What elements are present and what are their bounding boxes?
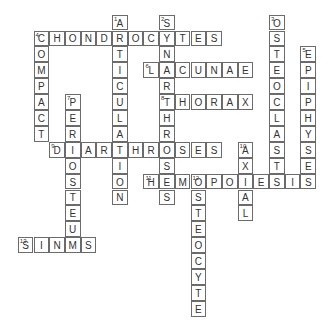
- crossword-cell[interactable]: T: [65, 190, 81, 206]
- crossword-cell[interactable]: A: [238, 190, 254, 206]
- crossword-cell[interactable]: 2S: [159, 15, 175, 31]
- crossword-cell[interactable]: T: [175, 31, 191, 47]
- crossword-cell[interactable]: 9D: [49, 142, 65, 158]
- crossword-cell[interactable]: O: [159, 142, 175, 158]
- crossword-cell[interactable]: I: [285, 174, 301, 190]
- crossword-cell[interactable]: S: [65, 174, 81, 190]
- crossword-cell[interactable]: E: [238, 62, 254, 78]
- crossword-cell[interactable]: I: [300, 78, 316, 94]
- crossword-cell[interactable]: S: [159, 190, 175, 206]
- crossword-cell[interactable]: X: [238, 94, 254, 110]
- crossword-cell[interactable]: 4C: [34, 31, 50, 47]
- crossword-cell[interactable]: 12O: [191, 174, 207, 190]
- crossword-cell[interactable]: R: [159, 126, 175, 142]
- crossword-cell[interactable]: A: [112, 126, 128, 142]
- crossword-cell[interactable]: T: [34, 126, 50, 142]
- crossword-cell[interactable]: O: [269, 78, 285, 94]
- crossword-cell[interactable]: 13S: [18, 237, 34, 253]
- crossword-cell[interactable]: O: [65, 158, 81, 174]
- crossword-cell[interactable]: I: [34, 237, 50, 253]
- crossword-cell[interactable]: S: [81, 237, 97, 253]
- crossword-cell[interactable]: E: [191, 221, 207, 237]
- crossword-cell[interactable]: P: [206, 174, 222, 190]
- crossword-cell[interactable]: I: [65, 142, 81, 158]
- crossword-cell[interactable]: E: [65, 205, 81, 221]
- crossword-cell[interactable]: T: [191, 285, 207, 301]
- crossword-cell[interactable]: U: [191, 62, 207, 78]
- crossword-cell[interactable]: P: [300, 94, 316, 110]
- crossword-cell[interactable]: O: [191, 94, 207, 110]
- crossword-cell[interactable]: E: [253, 174, 269, 190]
- crossword-cell[interactable]: O: [34, 46, 50, 62]
- crossword-cell[interactable]: 8T: [159, 94, 175, 110]
- crossword-cell[interactable]: N: [49, 237, 65, 253]
- crossword-cell[interactable]: H: [49, 31, 65, 47]
- crossword-cell[interactable]: T: [269, 158, 285, 174]
- crossword-cell[interactable]: R: [159, 78, 175, 94]
- crossword-cell[interactable]: Y: [300, 126, 316, 142]
- crossword-cell[interactable]: 1A: [112, 15, 128, 31]
- crossword-cell[interactable]: X: [238, 158, 254, 174]
- crossword-cell[interactable]: T: [112, 46, 128, 62]
- crossword-cell[interactable]: S: [206, 142, 222, 158]
- crossword-cell[interactable]: S: [206, 31, 222, 47]
- crossword-cell[interactable]: C: [34, 110, 50, 126]
- crossword-cell[interactable]: R: [206, 94, 222, 110]
- crossword-cell[interactable]: 3O: [269, 15, 285, 31]
- crossword-cell[interactable]: N: [112, 190, 128, 206]
- crossword-cell[interactable]: T: [112, 142, 128, 158]
- crossword-cell[interactable]: E: [300, 158, 316, 174]
- crossword-cell[interactable]: P: [300, 62, 316, 78]
- crossword-cell[interactable]: A: [34, 94, 50, 110]
- crossword-cell[interactable]: A: [269, 126, 285, 142]
- crossword-cell[interactable]: Y: [159, 31, 175, 47]
- crossword-cell[interactable]: R: [143, 142, 159, 158]
- crossword-cell[interactable]: E: [159, 174, 175, 190]
- crossword-cell[interactable]: C: [269, 94, 285, 110]
- crossword-cell[interactable]: 5E: [300, 46, 316, 62]
- crossword-cell[interactable]: U: [112, 94, 128, 110]
- crossword-cell[interactable]: S: [269, 142, 285, 158]
- crossword-cell[interactable]: P: [34, 78, 50, 94]
- crossword-cell[interactable]: C: [112, 78, 128, 94]
- crossword-cell[interactable]: E: [191, 301, 207, 317]
- crossword-cell[interactable]: S: [159, 158, 175, 174]
- crossword-cell[interactable]: T: [269, 46, 285, 62]
- crossword-cell[interactable]: R: [112, 31, 128, 47]
- crossword-cell[interactable]: 7P: [65, 94, 81, 110]
- crossword-cell[interactable]: N: [159, 46, 175, 62]
- crossword-cell[interactable]: M: [175, 174, 191, 190]
- crossword-cell[interactable]: S: [300, 174, 316, 190]
- crossword-cell[interactable]: I: [238, 174, 254, 190]
- crossword-cell[interactable]: L: [112, 110, 128, 126]
- crossword-cell[interactable]: R: [65, 126, 81, 142]
- crossword-cell[interactable]: S: [300, 142, 316, 158]
- crossword-cell[interactable]: A: [81, 142, 97, 158]
- crossword-cell[interactable]: D: [96, 31, 112, 47]
- crossword-cell[interactable]: S: [175, 142, 191, 158]
- crossword-cell[interactable]: E: [269, 62, 285, 78]
- crossword-cell[interactable]: T: [191, 205, 207, 221]
- crossword-cell[interactable]: M: [65, 237, 81, 253]
- crossword-cell[interactable]: O: [191, 237, 207, 253]
- crossword-cell[interactable]: L: [269, 110, 285, 126]
- crossword-cell[interactable]: C: [175, 62, 191, 78]
- crossword-cell[interactable]: O: [222, 174, 238, 190]
- crossword-cell[interactable]: S: [269, 31, 285, 47]
- crossword-cell[interactable]: O: [128, 31, 144, 47]
- crossword-cell[interactable]: S: [191, 190, 207, 206]
- crossword-cell[interactable]: H: [159, 110, 175, 126]
- crossword-cell[interactable]: L: [238, 205, 254, 221]
- crossword-cell[interactable]: 10A: [238, 142, 254, 158]
- crossword-cell[interactable]: O: [65, 31, 81, 47]
- crossword-cell[interactable]: U: [65, 221, 81, 237]
- crossword-cell[interactable]: I: [112, 158, 128, 174]
- crossword-cell[interactable]: 6L: [143, 62, 159, 78]
- crossword-cell[interactable]: E: [191, 31, 207, 47]
- crossword-cell[interactable]: H: [128, 142, 144, 158]
- crossword-cell[interactable]: A: [159, 62, 175, 78]
- crossword-cell[interactable]: E: [65, 110, 81, 126]
- crossword-cell[interactable]: A: [222, 62, 238, 78]
- crossword-cell[interactable]: I: [112, 62, 128, 78]
- crossword-cell[interactable]: M: [34, 62, 50, 78]
